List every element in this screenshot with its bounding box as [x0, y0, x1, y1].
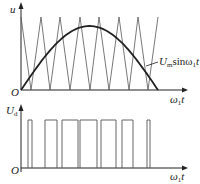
pwm-pulse [62, 120, 78, 168]
pwm-pulse [28, 120, 32, 168]
bottom-plot [19, 104, 189, 172]
pwm-pulse [122, 120, 133, 168]
top-plot [19, 2, 189, 93]
top-y-axis-label: u [10, 4, 16, 15]
arrow-up-icon [19, 2, 24, 9]
bottom-x-axis-label: ω1t [170, 171, 184, 184]
top-origin-label: O [11, 87, 19, 98]
carrier-triangle-wave [21, 17, 158, 90]
pwm-pulse [147, 120, 150, 168]
pwm-diagram [0, 0, 200, 184]
arrow-up-icon [19, 104, 24, 111]
top-x-axis-label: ω1t [170, 94, 184, 107]
bottom-y-axis-label: Ud [6, 105, 17, 118]
arrow-right-icon [182, 88, 188, 93]
pwm-pulse [101, 120, 116, 168]
pwm-pulse [80, 120, 97, 168]
sine-reference-curve [21, 26, 158, 90]
curve-label: Umsinω1t [159, 56, 199, 69]
bottom-origin-label: O [11, 165, 19, 176]
pwm-pulse [45, 120, 57, 168]
